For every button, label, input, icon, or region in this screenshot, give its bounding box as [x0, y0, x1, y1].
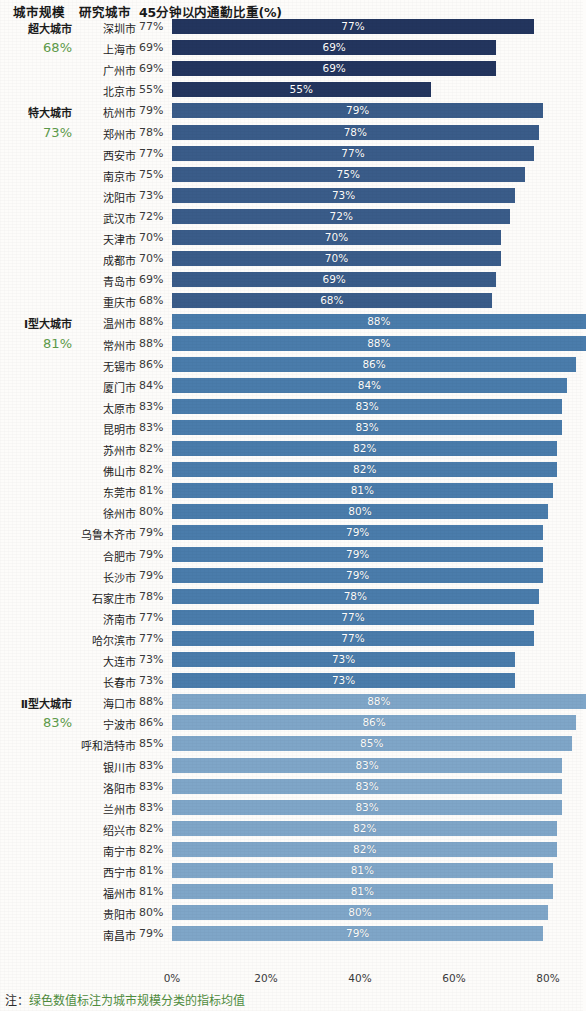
city-name: 济南市	[74, 611, 136, 627]
chart-row: 昆明市83%83%	[0, 420, 583, 441]
chart-row: 超大城市深圳市77%77%	[0, 19, 583, 40]
value-label-left: 83%	[139, 400, 167, 413]
bar-value-label: 55%	[172, 82, 431, 97]
value-label-left: 82%	[139, 822, 167, 835]
bar-value-label: 78%	[172, 125, 539, 140]
value-label-left: 69%	[139, 62, 167, 75]
bar-value-label: 79%	[172, 103, 543, 118]
chart-row: 青岛市69%69%	[0, 272, 583, 293]
value-label-left: 82%	[139, 843, 167, 856]
bar-value-label: 70%	[172, 230, 501, 245]
bar-value-label: 69%	[172, 40, 496, 55]
city-name: 南京市	[74, 168, 136, 184]
value-label-left: 80%	[139, 906, 167, 919]
bar-value-label: 83%	[172, 399, 562, 414]
chart-row: 贵阳市80%80%	[0, 905, 583, 926]
value-label-left: 68%	[139, 294, 167, 307]
chart-row: 南昌市79%79%	[0, 926, 583, 947]
bar-value-label: 88%	[172, 336, 586, 351]
bar-value-label: 73%	[172, 652, 515, 667]
bar-value-label: 69%	[172, 61, 496, 76]
city-name: 无锡市	[74, 358, 136, 374]
value-label-left: 69%	[139, 41, 167, 54]
chart-row: 73%郑州市78%78%	[0, 125, 583, 146]
chart-row: 绍兴市82%82%	[0, 821, 583, 842]
bar-value-label: 77%	[172, 610, 534, 625]
value-label-left: 82%	[139, 442, 167, 455]
value-label-left: 70%	[139, 231, 167, 244]
city-name: 贵阳市	[74, 906, 136, 922]
city-name: 成都市	[74, 252, 136, 268]
value-label-left: 84%	[139, 379, 167, 392]
bar-value-label: 79%	[172, 568, 543, 583]
chart-row: 长春市73%73%	[0, 673, 583, 694]
value-label-left: 77%	[139, 632, 167, 645]
bar-value-label: 79%	[172, 926, 543, 941]
bar-value-label: 73%	[172, 673, 515, 688]
city-name: 南宁市	[74, 843, 136, 859]
bar-value-label: 77%	[172, 19, 534, 34]
value-label-left: 88%	[139, 315, 167, 328]
value-label-left: 72%	[139, 210, 167, 223]
axis-tick-label: 60%	[442, 972, 465, 984]
chart-row: 石家庄市78%78%	[0, 589, 583, 610]
bar-value-label: 81%	[172, 483, 553, 498]
value-label-left: 83%	[139, 421, 167, 434]
chart-note: 注：绿色数值标注为城市规模分类的指标均值	[5, 991, 245, 1008]
bar-value-label: 83%	[172, 420, 562, 435]
chart-row: 成都市70%70%	[0, 251, 583, 272]
chart-row: 徐州市80%80%	[0, 504, 583, 525]
city-name: 北京市	[74, 83, 136, 99]
bar-value-label: 77%	[172, 146, 534, 161]
value-label-left: 88%	[139, 695, 167, 708]
axis-tick-label: 80%	[536, 972, 559, 984]
bar-value-label: 84%	[172, 378, 567, 393]
chart-row: 广州市69%69%	[0, 61, 583, 82]
city-name: 兰州市	[74, 801, 136, 817]
city-name: 海口市	[74, 695, 136, 711]
bar-value-label: 83%	[172, 758, 562, 773]
city-name: 上海市	[74, 41, 136, 57]
chart-row: 南京市75%75%	[0, 167, 583, 188]
city-name: 哈尔滨市	[62, 632, 136, 648]
chart-row: 太原市83%83%	[0, 399, 583, 420]
city-name: 郑州市	[74, 126, 136, 142]
chart-row: 济南市77%77%	[0, 610, 583, 631]
bar-value-label: 82%	[172, 842, 557, 857]
bar-value-label: 79%	[172, 547, 543, 562]
city-name: 沈阳市	[74, 189, 136, 205]
bar-value-label: 80%	[172, 905, 548, 920]
value-label-left: 85%	[139, 737, 167, 750]
group-label-4: Ⅱ型大城市	[0, 695, 72, 711]
city-name: 洛阳市	[74, 780, 136, 796]
chart-row: 福州市81%81%	[0, 884, 583, 905]
value-label-left: 55%	[139, 83, 167, 96]
chart-row: 洛阳市83%83%	[0, 779, 583, 800]
chart-row: 天津市70%70%	[0, 230, 583, 251]
city-name: 昆明市	[74, 421, 136, 437]
value-label-left: 77%	[139, 611, 167, 624]
chart-row: 佛山市82%82%	[0, 462, 583, 483]
plot-area: 超大城市深圳市77%77%68%上海市69%69%广州市69%69%北京市55%…	[0, 19, 583, 969]
value-label-left: 86%	[139, 716, 167, 729]
chart-row: 西安市77%77%	[0, 146, 583, 167]
city-name: 武汉市	[74, 210, 136, 226]
bar-value-label: 72%	[172, 209, 510, 224]
value-label-left: 73%	[139, 653, 167, 666]
city-name: 宁波市	[74, 716, 136, 732]
value-label-left: 83%	[139, 759, 167, 772]
value-label-left: 79%	[139, 526, 167, 539]
city-name: 合肥市	[74, 548, 136, 564]
note-prefix: 注：	[5, 994, 29, 1008]
value-label-left: 80%	[139, 505, 167, 518]
chart-row: 北京市55%55%	[0, 82, 583, 103]
value-label-left: 81%	[139, 484, 167, 497]
bar-value-label: 78%	[172, 589, 539, 604]
city-name: 广州市	[74, 62, 136, 78]
x-axis: 0%20%40%60%80%	[0, 972, 583, 988]
value-label-left: 86%	[139, 358, 167, 371]
value-label-left: 88%	[139, 337, 167, 350]
bar-value-label: 77%	[172, 631, 534, 646]
bar-value-label: 83%	[172, 779, 562, 794]
